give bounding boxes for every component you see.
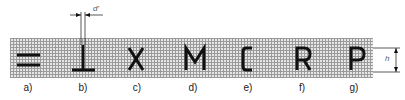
label-f: f): [299, 82, 305, 93]
label-a: a): [24, 82, 33, 93]
label-g: g): [350, 82, 359, 93]
height-label: h: [385, 54, 389, 63]
stroke-width-label: d': [93, 4, 99, 13]
glyph-c: [243, 48, 252, 70]
label-e: e): [244, 82, 253, 93]
glyph-x: [129, 48, 143, 70]
glyph-m: [186, 48, 204, 70]
label-b: b): [79, 82, 88, 93]
label-d: d): [189, 82, 198, 93]
glyph-p: [351, 48, 364, 70]
glyph-equals: [17, 55, 40, 65]
glyph-r: [297, 48, 310, 70]
glyph-perpendicular: [70, 12, 103, 70]
glyph-drawing: [0, 0, 405, 100]
label-c: c): [133, 82, 141, 93]
